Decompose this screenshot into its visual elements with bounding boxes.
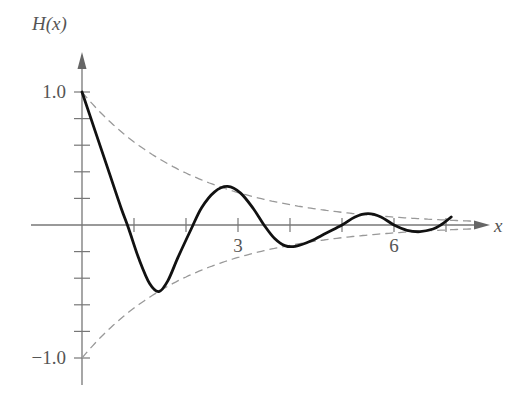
x-tick-label-3: 3: [233, 235, 243, 256]
damped-oscillation-chart: H(x) x 1.0 −1.0 3 6: [0, 0, 526, 403]
y-tick-label-bottom: −1.0: [32, 347, 66, 368]
y-axis-arrow-icon: [78, 52, 87, 69]
y-axis-label: H(x): [31, 13, 67, 35]
lower-envelope-curve: [82, 229, 472, 358]
x-axis-arrow-icon: [474, 221, 490, 230]
x-tick-label-6: 6: [389, 235, 399, 256]
upper-envelope-curve: [82, 92, 472, 221]
axes: [31, 62, 480, 385]
y-tick-label-top: 1.0: [42, 81, 66, 102]
h-of-x-curve: [82, 92, 451, 292]
x-axis-label: x: [493, 215, 503, 236]
